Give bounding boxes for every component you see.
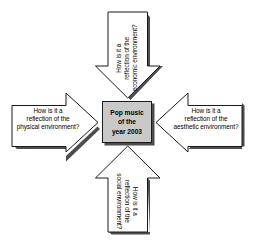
arrow-left-label-line-2: reflection of the [14, 115, 82, 123]
arrow-bottom-label-line-3: social environment? [115, 168, 123, 234]
diagram-canvas: How is it a reflection of the economic e… [0, 0, 254, 245]
arrow-left-label-line-1: How is it a [14, 107, 82, 115]
arrow-bottom-label: How is it a reflection of the social env… [115, 168, 140, 234]
arrow-top-label-line-2: reflection of the [123, 25, 131, 91]
arrow-bottom-label-line-2: reflection of the [123, 168, 131, 234]
center-topic-line-2: of the [118, 117, 136, 126]
arrow-top-label-line-3: economic environment? [131, 25, 139, 91]
center-topic-box[interactable]: Pop music of the year 2003 [102, 101, 152, 143]
arrow-top-label-line-1: How is it a [115, 25, 123, 91]
center-topic-line-1: Pop music [110, 108, 143, 117]
arrow-left-label-line-3: physical environment? [14, 123, 82, 131]
center-topic-line-3: year 2003 [112, 127, 142, 136]
arrow-right-label-line-3: aesthetic environment? [172, 123, 240, 131]
arrow-right-label-line-1: How is it a [172, 107, 240, 115]
arrow-right-label-line-2: reflection of the [172, 115, 240, 123]
arrow-top-label: How is it a reflection of the economic e… [115, 25, 140, 91]
arrow-bottom-label-line-1: How is it a [131, 168, 139, 234]
arrow-right-label: How is it a reflection of the aesthetic … [172, 107, 240, 132]
arrow-left-label: How is it a reflection of the physical e… [14, 107, 82, 132]
